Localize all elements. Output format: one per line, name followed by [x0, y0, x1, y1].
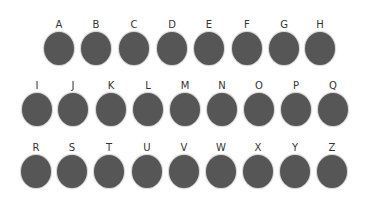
letter-label: L [133, 80, 163, 92]
letter-label: W [206, 142, 236, 154]
circle-button[interactable] [206, 155, 236, 188]
circle-button[interactable] [305, 32, 335, 65]
letter-label: S [57, 142, 87, 154]
letter-key-d[interactable]: D [157, 19, 187, 77]
letter-label: F [232, 19, 262, 31]
letter-label: C [119, 19, 149, 31]
circle-button[interactable] [157, 32, 187, 65]
letter-label: K [96, 80, 126, 92]
letter-key-l[interactable]: L [133, 80, 163, 138]
letter-label: Q [318, 80, 348, 92]
letter-key-s[interactable]: S [57, 142, 87, 200]
circle-button[interactable] [317, 155, 347, 188]
circle-button[interactable] [170, 93, 200, 126]
letter-key-i[interactable]: I [22, 80, 52, 138]
letter-label: T [94, 142, 124, 154]
circle-button[interactable] [318, 93, 348, 126]
letter-key-n[interactable]: N [207, 80, 237, 138]
letter-key-g[interactable]: G [269, 19, 299, 77]
letter-key-w[interactable]: W [206, 142, 236, 200]
letter-label: I [22, 80, 52, 92]
letter-key-a[interactable]: A [44, 19, 74, 77]
circle-button[interactable] [169, 155, 199, 188]
circle-button[interactable] [21, 155, 51, 188]
letter-label: R [21, 142, 51, 154]
circle-button[interactable] [281, 93, 311, 126]
letter-key-t[interactable]: T [94, 142, 124, 200]
letter-key-e[interactable]: E [194, 19, 224, 77]
letter-label: D [157, 19, 187, 31]
circle-button[interactable] [133, 93, 163, 126]
circle-button[interactable] [280, 155, 310, 188]
circle-button[interactable] [244, 93, 274, 126]
circle-button[interactable] [132, 155, 162, 188]
letter-key-m[interactable]: M [170, 80, 200, 138]
letter-key-o[interactable]: O [244, 80, 274, 138]
letter-key-x[interactable]: X [243, 142, 273, 200]
letter-key-q[interactable]: Q [318, 80, 348, 138]
circle-button[interactable] [243, 155, 273, 188]
letter-key-j[interactable]: J [58, 80, 88, 138]
letter-key-z[interactable]: Z [317, 142, 347, 200]
circle-button[interactable] [57, 155, 87, 188]
letter-label: U [132, 142, 162, 154]
circle-button[interactable] [58, 93, 88, 126]
letter-label: G [269, 19, 299, 31]
circle-button[interactable] [232, 32, 262, 65]
circle-button[interactable] [194, 32, 224, 65]
letter-key-h[interactable]: H [305, 19, 335, 77]
letter-label: E [194, 19, 224, 31]
letter-label: B [81, 19, 111, 31]
circle-button[interactable] [96, 93, 126, 126]
letter-label: M [170, 80, 200, 92]
letter-key-u[interactable]: U [132, 142, 162, 200]
letter-label: P [281, 80, 311, 92]
circle-button[interactable] [81, 32, 111, 65]
letter-label: X [243, 142, 273, 154]
letter-key-k[interactable]: K [96, 80, 126, 138]
circle-button[interactable] [119, 32, 149, 65]
circle-button[interactable] [94, 155, 124, 188]
letter-key-c[interactable]: C [119, 19, 149, 77]
letter-key-r[interactable]: R [21, 142, 51, 200]
letter-key-y[interactable]: Y [280, 142, 310, 200]
letter-label: O [244, 80, 274, 92]
letter-key-f[interactable]: F [232, 19, 262, 77]
letter-key-p[interactable]: P [281, 80, 311, 138]
circle-button[interactable] [207, 93, 237, 126]
letter-label: N [207, 80, 237, 92]
letter-key-v[interactable]: V [169, 142, 199, 200]
circle-button[interactable] [44, 32, 74, 65]
letter-label: Z [317, 142, 347, 154]
letter-label: V [169, 142, 199, 154]
letter-label: H [305, 19, 335, 31]
letter-key-b[interactable]: B [81, 19, 111, 77]
letter-label: Y [280, 142, 310, 154]
letter-label: A [44, 19, 74, 31]
letter-label: J [58, 80, 88, 92]
circle-button[interactable] [22, 93, 52, 126]
circle-button[interactable] [269, 32, 299, 65]
